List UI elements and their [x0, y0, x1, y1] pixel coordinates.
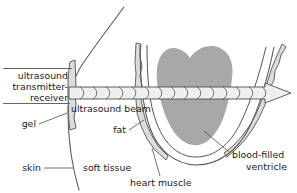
gel-label: gel	[22, 118, 36, 129]
ultrasound-heart-diagram: ultrasound transmitter- receiver ultraso…	[0, 0, 297, 193]
ventricle-label-line1: blood-filled	[232, 149, 284, 160]
transmitter-label-line1: ultrasound	[18, 70, 68, 81]
skin-label: skin	[22, 162, 41, 173]
fat-label: fat	[113, 124, 126, 135]
heart-muscle-label: heart muscle	[130, 177, 192, 188]
fat-layer-right	[224, 44, 286, 157]
gel-leader-line	[39, 113, 67, 124]
ultrasound-beam-label: ultrasound beam	[71, 103, 151, 114]
transmitter-label-line3: receiver	[30, 92, 68, 103]
transmitter-label-line2: transmitter-	[12, 81, 68, 92]
ventricle-leader-line	[204, 131, 229, 152]
ventricle-label-line2: ventricle	[246, 161, 287, 172]
diagram-canvas: ultrasound transmitter- receiver ultraso…	[0, 0, 297, 193]
soft-tissue-label: soft tissue	[83, 162, 131, 173]
